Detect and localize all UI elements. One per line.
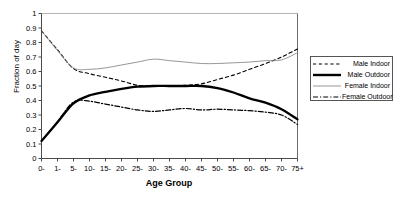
x-tick-label: 35-: [164, 164, 175, 173]
series-layer: [42, 31, 298, 141]
x-tick-label: 55-: [228, 164, 239, 173]
x-tick-label: 60-: [244, 164, 255, 173]
chart-figure: 00.10.20.30.40.50.60.70.80.910-1-5-10-15…: [0, 0, 394, 203]
legend-item-female-indoor: Female Indoor: [311, 80, 392, 91]
x-tick-label: 15-: [100, 164, 111, 173]
y-tick-label: 0.6: [26, 67, 36, 76]
y-tick-label: 0.9: [26, 24, 36, 33]
x-tick-label: 5-: [70, 164, 77, 173]
legend-label: Male Indoor: [342, 60, 390, 67]
legend-label: Female Indoor: [342, 82, 390, 89]
y-tick-label: 0.4: [26, 96, 36, 105]
x-tick-label: 45-: [196, 164, 207, 173]
y-tick-label: 0.7: [26, 53, 36, 62]
legend-swatch-male-indoor: [312, 59, 342, 69]
x-tick-label: 30-: [148, 164, 159, 173]
legend-swatch-male-outdoor: [312, 70, 342, 80]
x-axis-title: Age Group: [41, 178, 297, 188]
x-tick-label: 50-: [212, 164, 223, 173]
y-tick-label: 1: [32, 9, 36, 18]
legend-swatch-female-indoor: [312, 81, 342, 91]
y-tick-label: 0.2: [26, 125, 36, 134]
x-tick-label: 25-: [132, 164, 143, 173]
chart-legend: Male Indoor Male Outdoor Female Indoor F…: [310, 56, 393, 101]
legend-item-male-indoor: Male Indoor: [311, 58, 392, 69]
series-line-male-indoor: [42, 31, 298, 86]
y-axis-title: Fraction of day: [12, 17, 21, 117]
x-tick-label: 1-: [54, 164, 61, 173]
series-line-female-outdoor: [42, 100, 298, 141]
x-tick-label: 75+: [291, 164, 304, 173]
series-line-male-outdoor: [42, 86, 298, 141]
x-tick-label: 10-: [84, 164, 95, 173]
axes-layer: 00.10.20.30.40.50.60.70.80.910-1-5-10-15…: [26, 9, 304, 172]
series-line-female-indoor: [42, 31, 298, 70]
y-tick-label: 0: [32, 154, 36, 163]
legend-swatch-female-outdoor: [312, 92, 342, 102]
y-tick-label: 0.8: [26, 38, 36, 47]
y-tick-label: 0.1: [26, 140, 36, 149]
x-tick-label: 0-: [38, 164, 45, 173]
x-tick-label: 65-: [260, 164, 271, 173]
legend-label: Male Outdoor: [342, 71, 390, 78]
x-tick-label: 40-: [180, 164, 191, 173]
x-tick-label: 20-: [116, 164, 127, 173]
legend-item-male-outdoor: Male Outdoor: [311, 69, 392, 80]
y-tick-label: 0.5: [26, 82, 36, 91]
x-tick-label: 70-: [276, 164, 287, 173]
legend-item-female-outdoor: Female Outdoor: [311, 91, 392, 102]
y-tick-label: 0.3: [26, 111, 36, 120]
legend-label: Female Outdoor: [342, 93, 393, 100]
